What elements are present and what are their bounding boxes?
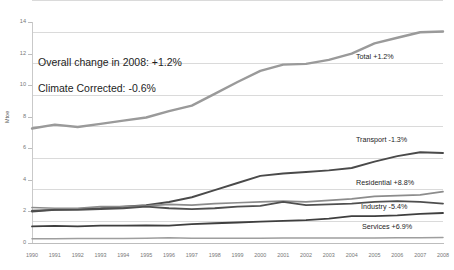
series-label-industry: Industry -5.4% (361, 202, 407, 211)
series-label-residential: Residential +8.8% (356, 178, 414, 187)
annotation-overall-change: Overall change in 2008: +1.2% (38, 56, 182, 68)
series-line-total (32, 31, 443, 128)
annotation-climate-corrected: Climate Corrected: -0.6% (38, 82, 156, 94)
series-label-total: Total +1.2% (356, 52, 394, 61)
series-label-services: Services +6.9% (362, 222, 412, 231)
series-label-transport: Transport -1.3% (356, 135, 407, 144)
series-line-other (32, 237, 443, 238)
